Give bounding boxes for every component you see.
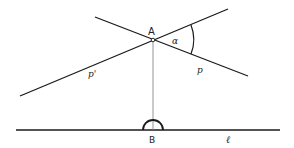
- label-a: A: [148, 26, 155, 37]
- label-b: B: [149, 135, 155, 145]
- label-p: p: [197, 65, 203, 75]
- label-l: ℓ: [226, 134, 230, 145]
- angle-arc: [191, 25, 194, 54]
- point-a-marker: [151, 38, 155, 42]
- label-p-prime: p': [88, 69, 96, 79]
- line-p: [95, 17, 248, 76]
- line-p-prime: [20, 9, 228, 96]
- label-alpha: α: [172, 36, 178, 46]
- geometry-diagram: A B α p p' ℓ: [0, 0, 294, 148]
